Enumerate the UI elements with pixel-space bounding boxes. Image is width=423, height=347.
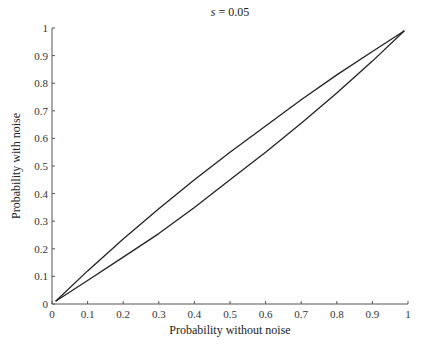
chart: s = 0.05 00.10.20.30.40.50.60.70.80.91 0…	[0, 0, 423, 347]
x-tick-label: 0	[49, 308, 55, 320]
plot-lines	[56, 31, 405, 301]
y-tick-label: 0.9	[34, 50, 48, 62]
y-tick-label: 0.2	[34, 243, 48, 255]
y-tick-label: 0.6	[34, 132, 48, 144]
x-tick-label: 0.9	[366, 308, 380, 320]
x-tick-label: 0.1	[81, 308, 95, 320]
y-tick-label: 0.8	[34, 77, 48, 89]
chart-title: s = 0.05	[211, 5, 249, 19]
upper-curve-line	[56, 31, 405, 301]
x-tick-label: 0.6	[259, 308, 273, 320]
y-tick-label: 0.1	[34, 270, 48, 282]
axes	[52, 28, 408, 304]
y-tick-label: 1	[43, 22, 49, 34]
x-tick-label: 0.3	[152, 308, 166, 320]
x-tick-label: 0.7	[294, 308, 308, 320]
x-tick-label: 0.2	[116, 308, 130, 320]
x-tick-label: 0.4	[188, 308, 202, 320]
y-tick-label: 0.7	[34, 105, 48, 117]
x-tick-label: 0.8	[330, 308, 344, 320]
lower-curve-line	[56, 31, 405, 301]
y-axis-title: Probability with noise	[9, 113, 23, 219]
x-axis-title: Probability without noise	[169, 323, 290, 337]
y-tick-label: 0.3	[34, 215, 48, 227]
y-tick-label: 0.5	[34, 160, 48, 172]
y-tick-label: 0.4	[34, 188, 48, 200]
x-tick-label: 0.5	[223, 308, 237, 320]
x-tick-label: 1	[405, 308, 411, 320]
y-tick-label: 0	[43, 298, 49, 310]
